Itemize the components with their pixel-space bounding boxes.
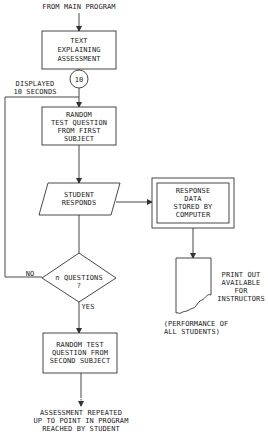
node-printout-line-3: FOR xyxy=(235,287,249,295)
node-q2-line-3: SECOND SUBJECT xyxy=(50,357,111,365)
node-q1-line-1: RANDOM xyxy=(66,111,92,119)
timer-note: DISPLAYED 10 SECONDS xyxy=(13,80,56,96)
node-store-line-1: RESPONSE xyxy=(176,187,211,195)
printout-note-line-1: (PERFORMANCE OF xyxy=(164,320,229,328)
node-printout-line-2: AVAILABLE xyxy=(222,279,261,287)
exit-note-line-2: UP TO POINT IN PROGRAM xyxy=(34,417,129,425)
node-decision-line-2: ? xyxy=(77,282,81,290)
edge-label-yes: YES xyxy=(82,303,95,311)
flowchart: FROM MAIN PROGRAM TEXT EXPLAINING ASSESS… xyxy=(0,0,268,438)
node-respond-line-1: STUDENT xyxy=(64,191,95,199)
node-timer: 10 xyxy=(70,70,88,88)
node-intro-line-3: ASSESSMENT xyxy=(57,55,101,63)
node-intro-line-2: EXPLAINING xyxy=(57,46,100,54)
node-q2-line-2: QUESTION FROM xyxy=(52,349,108,357)
exit-note: ASSESSMENT REPEATED UP TO POINT IN PROGR… xyxy=(34,409,129,433)
node-store-line-4: COMPUTER xyxy=(176,211,211,219)
node-printout: PRINT OUT AVAILABLE FOR INSTRUCTORS xyxy=(176,258,265,313)
printout-note: (PERFORMANCE OF ALL STUDENTS) xyxy=(164,320,229,336)
node-store-line-2: DATA xyxy=(184,195,202,203)
node-printout-line-1: PRINT OUT xyxy=(222,271,262,279)
node-intro-line-1: TEXT xyxy=(70,37,88,45)
node-q2-line-1: RANDOM TEST xyxy=(56,341,104,349)
node-q1-line-2: TEST QUESTION xyxy=(51,119,107,127)
node-store: RESPONSE DATA STORED BY COMPUTER xyxy=(152,178,234,228)
printout-note-line-2: ALL STUDENTS) xyxy=(164,328,220,336)
node-q1-line-4: SUBJECT xyxy=(64,135,95,143)
edge-label-no: NO xyxy=(26,270,35,278)
node-decision-line-1: n QUESTIONS xyxy=(55,274,102,282)
node-printout-line-4: INSTRUCTORS xyxy=(217,295,264,303)
node-intro: TEXT EXPLAINING ASSESSMENT xyxy=(42,31,116,69)
exit-note-line-1: ASSESSMENT REPEATED xyxy=(40,409,122,417)
entry-label: FROM MAIN PROGRAM xyxy=(42,3,115,11)
node-decision: n QUESTIONS ? xyxy=(42,253,116,302)
node-timer-label: 10 xyxy=(75,76,84,84)
timer-note-line-1: DISPLAYED xyxy=(16,80,55,88)
node-store-line-3: STORED BY xyxy=(174,203,214,211)
timer-note-line-2: 10 SECONDS xyxy=(13,88,56,96)
node-respond: STUDENT RESPONDS xyxy=(39,183,120,215)
node-q2: RANDOM TEST QUESTION FROM SECOND SUBJECT xyxy=(43,333,117,373)
node-q1-line-3: FROM FIRST xyxy=(57,127,101,135)
node-q1: RANDOM TEST QUESTION FROM FIRST SUBJECT xyxy=(42,107,116,145)
exit-note-line-3: REACHED BY STUDENT xyxy=(42,425,120,433)
node-respond-line-2: RESPONDS xyxy=(62,199,97,207)
